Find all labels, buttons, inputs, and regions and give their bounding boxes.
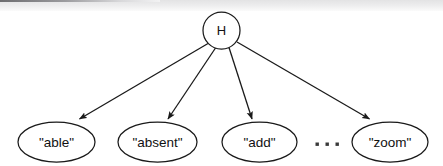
ellipsis-dot	[316, 143, 319, 146]
tree-graph: H "able" "absent" "add" "zoom"	[0, 0, 443, 166]
edge-root-able	[80, 44, 209, 120]
leaf-label-able: "able"	[39, 135, 74, 150]
ellipsis-dot	[326, 143, 329, 146]
leaf-label-zoom: "zoom"	[369, 135, 412, 150]
node-leaf-able[interactable]: "able"	[18, 122, 95, 162]
node-root[interactable]: H	[203, 12, 240, 49]
edge-root-zoom	[237, 42, 370, 119]
diagram-canvas: H "able" "absent" "add" "zoom"	[0, 0, 443, 166]
node-leaf-absent[interactable]: "absent"	[118, 122, 197, 162]
edge-root-add	[229, 48, 252, 120]
edge-root-absent	[168, 48, 216, 119]
leaf-label-add: "add"	[243, 135, 275, 150]
edge-group	[80, 42, 370, 119]
node-leaf-add[interactable]: "add"	[222, 122, 297, 162]
ellipsis-dot	[336, 143, 339, 146]
ellipsis-more-leaves	[316, 143, 339, 146]
leaf-label-absent: "absent"	[132, 135, 182, 150]
node-leaf-zoom[interactable]: "zoom"	[352, 122, 428, 162]
root-node-label: H	[217, 23, 226, 38]
